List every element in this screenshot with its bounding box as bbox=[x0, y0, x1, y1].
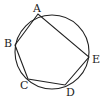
label-c: C bbox=[20, 79, 28, 92]
geometry-diagram: A B C D E bbox=[0, 0, 103, 104]
label-e: E bbox=[92, 53, 100, 66]
pentagon-abcde bbox=[15, 14, 89, 85]
label-b: B bbox=[4, 37, 12, 50]
label-a: A bbox=[32, 2, 42, 15]
label-d: D bbox=[66, 86, 75, 99]
